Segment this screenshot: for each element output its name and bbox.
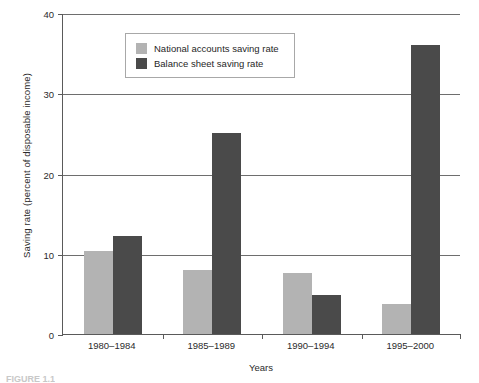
figure-caption: FIGURE 1.1 bbox=[6, 374, 55, 383]
y-tick-mark bbox=[58, 94, 63, 95]
y-tick-label: 20 bbox=[26, 169, 54, 180]
bar bbox=[382, 304, 411, 334]
y-tick-mark bbox=[58, 14, 63, 15]
legend-swatch-icon bbox=[136, 43, 147, 54]
x-axis-title: Years bbox=[62, 362, 460, 373]
x-tick-mark bbox=[362, 334, 363, 339]
x-tick-label: 1990–1994 bbox=[287, 340, 335, 351]
x-tick-mark bbox=[262, 334, 263, 339]
plot-area: National accounts saving rate Balance sh… bbox=[62, 14, 460, 335]
y-tick-mark bbox=[58, 255, 63, 256]
x-tick-mark bbox=[460, 334, 461, 339]
y-tick-mark bbox=[58, 175, 63, 176]
bar bbox=[183, 270, 212, 334]
x-tick-label: 1995–2000 bbox=[386, 340, 434, 351]
legend-item: Balance sheet saving rate bbox=[136, 56, 286, 70]
bar bbox=[84, 251, 113, 334]
y-tick-label: 30 bbox=[26, 89, 54, 100]
y-tick-mark bbox=[58, 335, 63, 336]
bar bbox=[212, 133, 241, 334]
x-axis-tick-labels: 1980–19841985–19891990–19941995–2000 bbox=[62, 340, 460, 356]
gridline bbox=[63, 14, 460, 15]
x-tick-label: 1980–1984 bbox=[88, 340, 136, 351]
gridline bbox=[63, 175, 460, 176]
legend-item-label: National accounts saving rate bbox=[154, 43, 279, 54]
figure-container: Saving rate (percent of disposable incom… bbox=[0, 0, 479, 383]
legend-item: National accounts saving rate bbox=[136, 41, 286, 55]
x-tick-label: 1985–1989 bbox=[187, 340, 235, 351]
gridline bbox=[63, 94, 460, 95]
bar bbox=[283, 273, 312, 334]
chart-legend: National accounts saving rate Balance sh… bbox=[125, 33, 295, 78]
y-tick-label: 40 bbox=[26, 9, 54, 20]
bar bbox=[113, 236, 142, 334]
bar bbox=[312, 295, 341, 334]
x-tick-mark bbox=[163, 334, 164, 339]
bar bbox=[411, 45, 440, 334]
y-tick-label: 0 bbox=[26, 330, 54, 341]
y-tick-label: 10 bbox=[26, 249, 54, 260]
legend-item-label: Balance sheet saving rate bbox=[154, 58, 263, 69]
legend-swatch-icon bbox=[136, 58, 147, 69]
y-axis-tick-labels: 010203040 bbox=[26, 0, 54, 383]
